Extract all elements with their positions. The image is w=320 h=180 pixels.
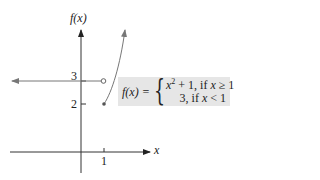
y-tick-label-2: 2	[71, 98, 77, 110]
x-tick-label-1: 1	[101, 155, 107, 167]
formula-lhs: f(x) =	[122, 85, 150, 100]
y-tick-label-3: 3	[71, 70, 77, 82]
function-definition-box: f(x) = { x2 + 1, if x ≥ 1 3, if x < 1	[118, 77, 230, 106]
y-axis-label: f(x)	[70, 12, 87, 24]
open-circle-point	[101, 79, 106, 84]
x-axis-label: x	[154, 144, 159, 156]
closed-dot-point	[102, 102, 106, 106]
brace-symbol: {	[154, 76, 165, 105]
formula-case-2: 3, if x < 1	[180, 91, 226, 106]
